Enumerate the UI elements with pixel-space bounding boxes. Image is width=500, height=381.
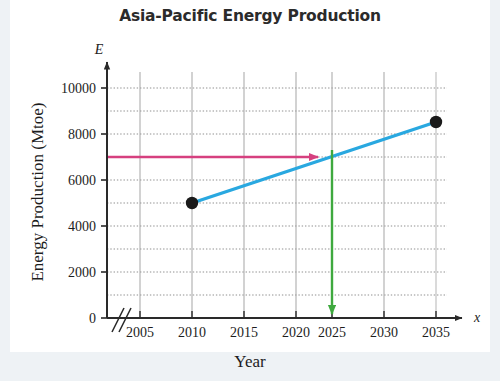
vertical-gridlines (140, 72, 436, 318)
y-axis-symbol: E (94, 42, 104, 57)
data-point-2010 (186, 197, 198, 209)
x-tick-label: 2025 (318, 325, 346, 340)
chart-plot: 10000 8000 6000 4000 2000 0 2005 2010 20… (0, 0, 500, 381)
x-axis-symbol: x (473, 310, 481, 325)
x-tick-label: 2010 (178, 325, 206, 340)
y-tick-labels: 10000 8000 6000 4000 2000 0 (61, 81, 96, 326)
y-tick-label: 6000 (68, 173, 96, 188)
x-tick-label: 2005 (126, 325, 154, 340)
y-tick-label: 0 (89, 311, 96, 326)
y-tick-label: 10000 (61, 81, 96, 96)
data-point-2035 (430, 116, 442, 128)
y-tick-label: 2000 (68, 265, 96, 280)
x-tick-label: 2035 (422, 325, 450, 340)
x-tick-label: 2020 (282, 325, 310, 340)
x-tick-label: 2015 (230, 325, 258, 340)
horizontal-gridlines (107, 88, 447, 295)
x-tick-label: 2030 (370, 325, 398, 340)
x-axis-ticks (140, 311, 436, 318)
x-tick-labels: 2005 2010 2015 2020 2025 2030 2035 (126, 325, 450, 340)
y-tick-label: 8000 (68, 127, 96, 142)
chart-page: Asia-Pacific Energy Production Energy Pr… (0, 0, 500, 381)
y-tick-label: 4000 (68, 219, 96, 234)
trend-line (192, 122, 436, 203)
